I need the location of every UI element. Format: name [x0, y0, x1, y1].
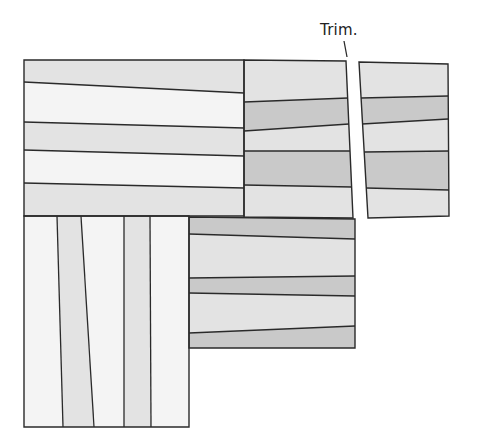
top-left-block-strip-5: [24, 183, 244, 216]
bottom-middle-block-strip-2: [189, 234, 355, 278]
top-middle-block-strip-5: [244, 185, 353, 218]
quilt-blocks-svg: [0, 0, 480, 440]
bottom-left-block-strip-4: [124, 216, 151, 427]
trim-leader-line: [344, 41, 347, 57]
bottom-left-block-strip-1: [24, 216, 63, 427]
trimmed-right-block-strip-1: [359, 62, 448, 98]
top-middle-block-strip-1: [244, 60, 348, 102]
trim-annotation-label: Trim.: [320, 21, 358, 39]
trimmed-right-block-strip-3: [362, 119, 449, 152]
quilt-diagram: Trim.: [0, 0, 480, 440]
strips-layer: [24, 60, 449, 427]
top-middle-block-strip-4: [244, 151, 352, 187]
trimmed-right-block-strip-4: [364, 151, 449, 190]
bottom-left-block-strip-5: [150, 216, 189, 427]
trimmed-right-block-strip-5: [366, 188, 449, 218]
